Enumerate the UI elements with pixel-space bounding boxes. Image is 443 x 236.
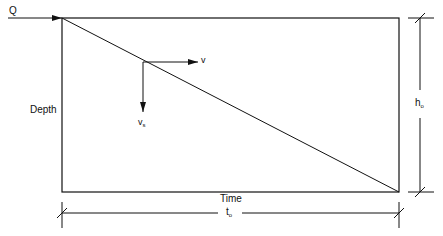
depth-label: Depth [30,104,57,115]
t-sub: o [229,212,232,218]
time-dimension-label: to [226,206,232,218]
inflow-label: Q [9,5,17,16]
settling-sub: s [143,122,146,128]
settling-velocity-label: vs [138,117,146,128]
velocity-label: v [201,55,206,65]
h-sub: o [421,103,424,109]
particle-trajectory [62,18,399,192]
height-dimension-label: ho [415,97,424,109]
time-label: Time [220,193,242,204]
